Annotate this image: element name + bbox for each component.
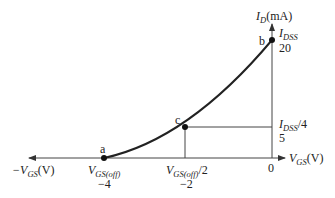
vgsoff-value: −4	[98, 177, 111, 191]
point-c-label: c	[175, 113, 180, 127]
idss-label: IDSS	[278, 26, 298, 42]
point-a-label: a	[100, 142, 106, 156]
vgsoff-half-value: −2	[180, 177, 193, 191]
y-axis-label: ID(mA)	[255, 9, 292, 25]
negative-x-axis-label: −VGS(V)	[12, 163, 55, 179]
x-axis-label: VGS(V)	[289, 151, 323, 167]
idss-value: 20	[279, 41, 291, 55]
point-b	[269, 37, 275, 43]
point-c	[182, 124, 188, 130]
point-b-label: b	[259, 34, 265, 48]
origin-label: 0	[268, 161, 274, 175]
transfer-curve	[104, 40, 272, 158]
idss-quarter-value: 5	[279, 131, 285, 145]
transfer-curve-chart: a c b ID(mA) IDSS 20 IDSS/4 5 VGS(V) 0 −…	[0, 0, 335, 198]
